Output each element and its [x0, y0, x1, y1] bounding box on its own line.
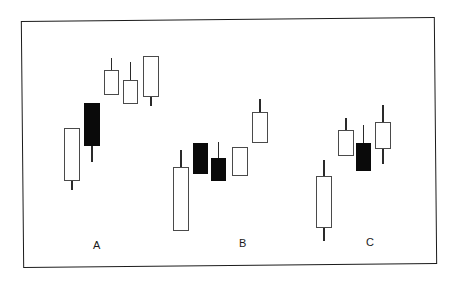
candle-body-bullish	[338, 130, 354, 156]
candle-body-bullish	[316, 176, 332, 228]
group-label-c: C	[366, 237, 374, 248]
plot-area: ABC	[0, 0, 460, 286]
candle-body-bullish	[375, 122, 391, 149]
candlestick-figure: ABC	[0, 0, 460, 286]
candle-group-c: C	[0, 0, 460, 286]
candle-body-bearish	[356, 143, 371, 171]
